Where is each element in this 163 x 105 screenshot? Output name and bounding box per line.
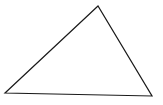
triangle-shape — [5, 6, 152, 96]
triangle-diagram — [0, 0, 163, 105]
